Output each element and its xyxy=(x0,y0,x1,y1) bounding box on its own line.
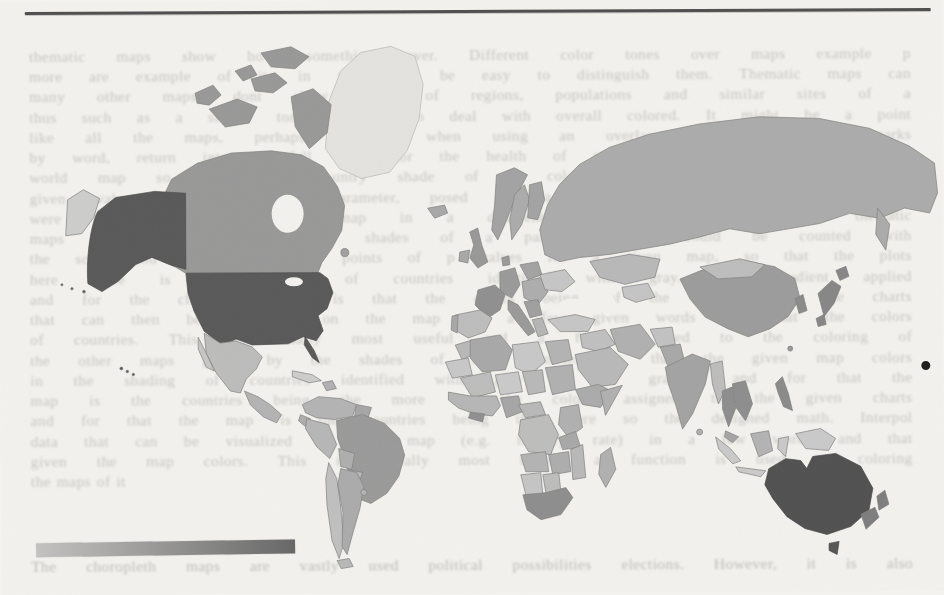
country-ukraine xyxy=(540,270,575,292)
country-namibia xyxy=(521,473,543,495)
country-portugal xyxy=(451,315,458,333)
country-india xyxy=(665,354,710,429)
ghana-coast xyxy=(469,412,485,422)
new-guinea xyxy=(796,428,836,450)
country-kazakhstan xyxy=(590,254,660,284)
country-drc xyxy=(519,415,559,455)
country-saudi xyxy=(575,347,628,387)
sumatra xyxy=(716,437,741,464)
country-iceland xyxy=(428,205,448,218)
country-madagascar xyxy=(599,447,616,487)
country-angola xyxy=(521,452,549,472)
country-poland xyxy=(520,262,542,280)
usa-florida xyxy=(304,337,319,363)
philippines xyxy=(775,377,792,411)
country-finland xyxy=(527,182,544,220)
scanned-page: thematic maps show how something over. D… xyxy=(0,0,944,595)
arctic-island xyxy=(291,89,331,149)
colombia-venezuela xyxy=(302,397,356,420)
country-denmark xyxy=(502,256,510,266)
japan-kyushu xyxy=(816,314,826,326)
hispaniola xyxy=(322,381,336,391)
country-peru xyxy=(306,419,337,459)
aleutian-island xyxy=(71,288,73,290)
country-ireland xyxy=(459,250,470,263)
caspian-sea xyxy=(601,292,615,316)
country-australia xyxy=(765,453,873,534)
java xyxy=(736,467,766,477)
country-malaysia xyxy=(725,431,739,443)
country-niger xyxy=(495,372,522,395)
sulawesi xyxy=(778,437,789,457)
japan-hokkaido xyxy=(836,266,849,280)
country-uk xyxy=(470,228,488,268)
world-choropleth-map xyxy=(0,0,944,595)
zambia-zimbabwe xyxy=(549,452,571,475)
arctic-island xyxy=(261,47,309,69)
nz-north-island xyxy=(877,490,889,510)
country-uruguay xyxy=(361,489,367,495)
taiwan xyxy=(788,346,793,351)
country-greenland xyxy=(325,46,424,178)
great-lakes xyxy=(285,277,303,286)
black-sea xyxy=(559,299,585,313)
country-sudan xyxy=(545,365,575,395)
central-asia xyxy=(622,283,655,302)
country-newfoundland xyxy=(341,249,349,257)
tierra-del-fuego xyxy=(337,559,353,569)
tasmania xyxy=(829,541,839,554)
country-turkey xyxy=(548,314,595,331)
hawaii-island xyxy=(132,373,134,375)
country-kenya xyxy=(558,405,582,438)
country-mozambique xyxy=(571,445,586,480)
aleutian-island xyxy=(61,284,63,286)
country-chad xyxy=(522,370,545,395)
country-greece xyxy=(532,318,548,337)
borneo xyxy=(751,431,773,457)
country-spain xyxy=(455,310,492,338)
country-algeria xyxy=(470,335,512,372)
country-sri-lanka xyxy=(697,429,703,435)
hawaii-island xyxy=(120,367,123,370)
arctic-island xyxy=(209,99,257,127)
ink-dot xyxy=(921,361,930,370)
country-japan xyxy=(818,280,841,316)
hawaii-island xyxy=(126,370,129,373)
aleutian-island xyxy=(83,290,86,293)
arctic-island xyxy=(195,85,221,105)
central-america xyxy=(244,391,281,423)
arctic-island xyxy=(251,73,287,93)
country-usa xyxy=(186,273,333,346)
country-egypt xyxy=(545,340,572,365)
hudson-bay xyxy=(272,195,304,233)
cameroon-car xyxy=(518,402,545,418)
country-alaska xyxy=(87,191,186,291)
country-cuba xyxy=(292,371,321,383)
mauritania xyxy=(445,358,472,378)
indochina xyxy=(732,381,752,421)
korea xyxy=(795,295,807,314)
country-russia xyxy=(539,116,938,262)
